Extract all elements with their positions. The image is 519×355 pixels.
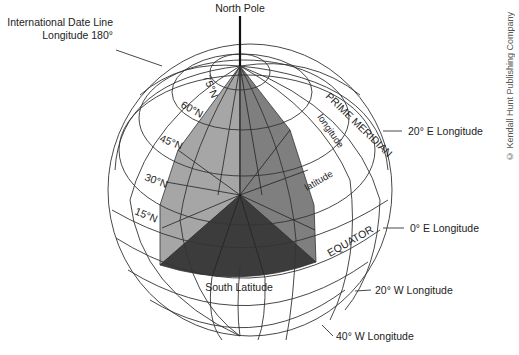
globe-diagram: North Pole International Date Line Longi… (0, 0, 519, 355)
parallel-45n-label: 45°N (158, 132, 184, 152)
latitude-label: latitude (303, 168, 335, 193)
date-line-label-1: International Date Line (7, 16, 113, 28)
parallel-60n-label: 60°N (179, 98, 205, 120)
lon-20w-label: 20° W Longitude (375, 284, 453, 296)
parallel-15n-label: 15°N (133, 205, 159, 225)
lon-20e-label: 20° E Longitude (408, 125, 483, 137)
copyright-notice: © Kendall Hunt Publishing Company (505, 12, 515, 161)
globe-svg: North Pole International Date Line Longi… (0, 0, 519, 355)
date-line-label-2: Longitude 180° (42, 29, 113, 41)
parallel-30n-label: 30°N (143, 171, 169, 190)
lon-40w-label: 40° W Longitude (336, 330, 414, 342)
latitude-longitude-wedges (160, 66, 316, 278)
lon-0e-label: 0° E Longitude (410, 222, 479, 234)
north-pole-label: North Pole (215, 2, 265, 14)
south-latitude-label: South Latitude (205, 281, 273, 293)
